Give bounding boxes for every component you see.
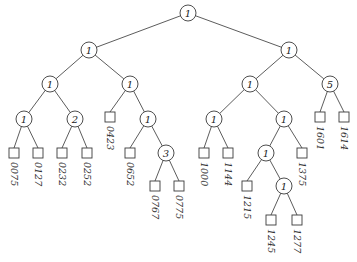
leaf-square: [223, 148, 233, 158]
internal-node: 1: [258, 145, 274, 161]
leaf-key-label: 1144: [223, 162, 234, 186]
leaf-key-label: 1000: [199, 162, 210, 186]
internal-node: 1: [281, 42, 297, 58]
leaf-square: [315, 112, 325, 122]
leaf-key-label: 1277: [292, 229, 303, 254]
tree-diagram: 1111115121113110075012702320252042306520…: [0, 0, 357, 262]
node-count-label: 1: [286, 45, 292, 56]
internal-node: 1: [42, 76, 58, 92]
tree-nodes: 1111115121113110075012702320252042306520…: [9, 5, 350, 254]
leaf-key-label: 0767: [150, 195, 161, 220]
leaf-key-label: 1601: [315, 126, 326, 150]
internal-node: 1: [180, 5, 196, 21]
leaf-square: [292, 215, 302, 225]
leaf-square: [105, 112, 115, 122]
leaf-key-label: 0652: [125, 162, 136, 186]
leaf-node: 0775: [174, 181, 185, 219]
leaf-key-label: 1375: [297, 162, 308, 186]
leaf-square: [33, 148, 43, 158]
node-count-label: 1: [247, 79, 253, 90]
leaf-node: 1215: [242, 181, 253, 219]
tree-edge: [89, 13, 188, 50]
leaf-node: 0232: [57, 148, 68, 186]
leaf-node: 1601: [315, 112, 326, 150]
internal-node: 2: [67, 111, 83, 127]
node-count-label: 1: [185, 8, 191, 19]
leaf-square: [9, 148, 19, 158]
leaf-square: [57, 148, 67, 158]
leaf-node: 1375: [297, 148, 308, 186]
leaf-square: [174, 181, 184, 191]
node-count-label: 1: [145, 114, 151, 125]
leaf-key-label: 1614: [339, 126, 350, 150]
node-count-label: 1: [211, 114, 217, 125]
node-count-label: 2: [71, 114, 78, 125]
internal-node: 1: [140, 111, 156, 127]
leaf-key-label: 0232: [57, 162, 68, 186]
node-count-label: 1: [86, 45, 92, 56]
internal-node: 5: [322, 76, 338, 92]
node-count-label: 5: [327, 79, 333, 90]
leaf-node: 0767: [150, 181, 161, 220]
internal-node: 3: [158, 145, 174, 161]
internal-node: 1: [16, 111, 32, 127]
leaf-node: 0652: [125, 148, 136, 186]
internal-node: 1: [242, 76, 258, 92]
node-count-label: 1: [127, 79, 133, 90]
leaf-square: [242, 181, 252, 191]
leaf-node: 0127: [33, 148, 44, 187]
leaf-node: 1000: [199, 148, 210, 186]
leaf-key-label: 0075: [9, 162, 20, 186]
internal-node: 1: [81, 42, 97, 58]
leaf-key-label: 0775: [174, 195, 185, 219]
leaf-key-label: 0252: [82, 162, 93, 186]
internal-node: 1: [206, 111, 222, 127]
leaf-node: 0423: [105, 112, 116, 150]
leaf-square: [125, 148, 135, 158]
leaf-key-label: 0127: [33, 162, 44, 187]
leaf-square: [82, 148, 92, 158]
leaf-node: 1277: [292, 215, 303, 254]
tree-edge: [188, 13, 289, 50]
leaf-node: 0252: [82, 148, 93, 186]
internal-node: 1: [276, 178, 292, 194]
node-count-label: 1: [47, 79, 53, 90]
leaf-square: [150, 181, 160, 191]
leaf-key-label: 0423: [105, 126, 116, 150]
leaf-node: 1144: [223, 148, 234, 186]
leaf-key-label: 1215: [242, 195, 253, 219]
node-count-label: 1: [281, 181, 287, 192]
node-count-label: 1: [263, 148, 269, 159]
internal-node: 1: [276, 111, 292, 127]
node-count-label: 3: [163, 148, 169, 159]
leaf-square: [297, 148, 307, 158]
leaf-square: [266, 215, 276, 225]
leaf-node: 1614: [339, 112, 350, 150]
leaf-node: 1245: [266, 215, 277, 253]
node-count-label: 1: [21, 114, 27, 125]
leaf-square: [339, 112, 349, 122]
leaf-key-label: 1245: [266, 229, 277, 253]
leaf-square: [199, 148, 209, 158]
internal-node: 1: [122, 76, 138, 92]
node-count-label: 1: [281, 114, 287, 125]
leaf-node: 0075: [9, 148, 20, 186]
